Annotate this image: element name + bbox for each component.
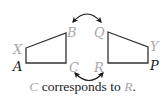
vertex-label-x: X — [12, 42, 23, 57]
vertex-label-p: P — [149, 58, 159, 73]
caption-vertex-c: C — [29, 79, 38, 94]
caption-text: corresponds to — [38, 79, 124, 94]
quadrilateral-xbca — [26, 33, 66, 63]
caption-period: . — [132, 79, 135, 94]
vertex-label-q: Q — [94, 25, 105, 40]
vertex-label-y: Y — [150, 39, 160, 54]
caption: C corresponds to R. — [0, 79, 165, 95]
top-double-arrow-icon — [73, 14, 101, 22]
vertex-label-r: R — [93, 60, 104, 75]
quadrilateral-qypr — [108, 32, 148, 63]
vertex-label-b: B — [66, 25, 77, 40]
vertex-label-c: C — [69, 60, 79, 75]
vertex-label-a: A — [12, 59, 22, 74]
